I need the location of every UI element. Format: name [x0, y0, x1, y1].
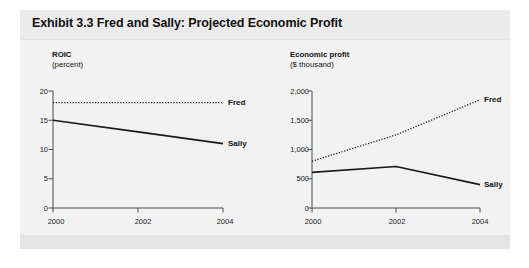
chart-roic: ROIC (percent) 20 15 10 5 0 2000 2002 20… [20, 40, 265, 235]
roic-legend-fred: Fred [228, 98, 245, 107]
chart-economic-profit: Economic profit ($ thousand) 2,000 1,500… [265, 40, 510, 235]
profit-plot [265, 40, 510, 235]
profit-legend-fred: Fred [484, 95, 501, 104]
profit-series-fred [312, 100, 480, 161]
roic-legend-sally: Sally [228, 139, 247, 148]
roic-plot [20, 40, 265, 235]
exhibit-panel: Exhibit 3.3 Fred and Sally: Projected Ec… [20, 10, 510, 249]
exhibit-title: Exhibit 3.3 Fred and Sally: Projected Ec… [32, 16, 342, 30]
roic-series-sally [53, 120, 223, 143]
exhibit-footer-band [20, 235, 510, 249]
profit-series-sally [312, 167, 480, 185]
profit-legend-sally: Sally [484, 180, 503, 189]
